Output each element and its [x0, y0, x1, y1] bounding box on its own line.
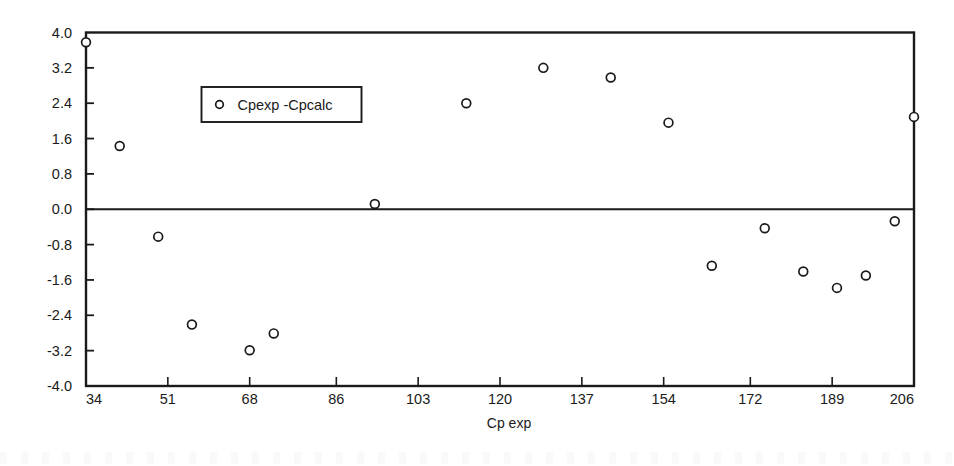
- data-point: [890, 217, 899, 226]
- data-point: [707, 261, 716, 270]
- data-series-cpexp--cpcalc: [82, 38, 919, 355]
- x-axis-tick-label: 103: [406, 391, 430, 407]
- data-point: [462, 99, 471, 108]
- y-axis-tick-label: -4.0: [47, 378, 72, 394]
- data-point: [115, 142, 124, 151]
- y-axis-tick-label: 1.6: [52, 131, 72, 147]
- data-point: [606, 73, 615, 82]
- x-axis-tick-label: 86: [328, 391, 344, 407]
- x-axis-tick-label: 34: [86, 391, 102, 407]
- y-axis-tick-label: 0.0: [52, 201, 72, 217]
- data-point: [269, 329, 278, 338]
- data-point: [760, 224, 769, 233]
- data-point: [188, 320, 197, 329]
- x-axis-tick-label: 120: [488, 391, 512, 407]
- y-axis-tick-label: 2.4: [52, 95, 72, 111]
- y-axis-tick-label: -3.2: [47, 343, 72, 359]
- data-point: [370, 200, 379, 209]
- y-axis-tick-label: -1.6: [47, 272, 72, 288]
- x-axis-tick-label: 68: [242, 391, 258, 407]
- data-point: [82, 38, 91, 47]
- y-axis-tick-label: -0.8: [47, 237, 72, 253]
- x-axis-tick-label: 172: [738, 391, 762, 407]
- x-axis-tick-label: 206: [890, 391, 914, 407]
- data-point: [910, 112, 919, 121]
- data-point: [539, 63, 548, 72]
- x-axis-title: Cp exp: [487, 415, 532, 431]
- legend-marker-icon: [216, 101, 224, 109]
- plot-canvas: 4.03.22.41.60.80.0-0.8-1.6-2.4-3.2-4.034…: [0, 0, 954, 466]
- data-point: [799, 267, 808, 276]
- legend: Cpexp -Cpcalc: [202, 87, 362, 122]
- x-axis-tick-label: 189: [820, 391, 844, 407]
- x-axis-tick-label: 137: [570, 391, 594, 407]
- x-axis-tick-label: 154: [652, 391, 676, 407]
- data-point: [154, 232, 163, 241]
- y-axis-tick-label: -2.4: [47, 307, 72, 323]
- data-point: [664, 118, 673, 127]
- y-axis-tick-label: 0.8: [52, 166, 72, 182]
- y-axis-tick-label: 3.2: [52, 60, 72, 76]
- y-axis-tick-label: 4.0: [52, 25, 72, 41]
- data-point: [861, 271, 870, 280]
- legend-label: Cpexp -Cpcalc: [238, 97, 333, 113]
- x-axis-tick-label: 51: [160, 391, 176, 407]
- data-point: [833, 284, 842, 293]
- scatter-plot-figure: 4.03.22.41.60.80.0-0.8-1.6-2.4-3.2-4.034…: [0, 0, 954, 466]
- data-point: [245, 346, 254, 355]
